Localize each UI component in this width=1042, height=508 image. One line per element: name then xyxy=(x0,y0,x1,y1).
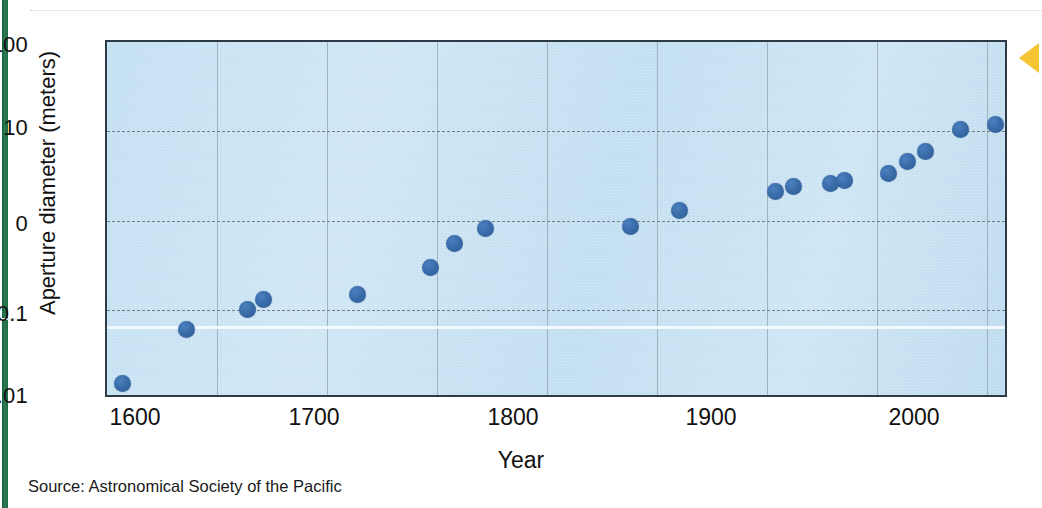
data-point xyxy=(178,321,195,338)
data-point xyxy=(622,218,639,235)
figure-page: 100 10 0 0.1 0.01 1600 1700 1800 1900 20… xyxy=(0,0,1042,508)
data-point xyxy=(477,220,494,237)
gridline-x-1650 xyxy=(217,42,218,395)
data-point xyxy=(767,183,784,200)
plot-area xyxy=(105,40,1007,397)
data-point xyxy=(255,291,272,308)
x-tick-label-2000: 2000 xyxy=(888,404,939,431)
y-tick-label-0.1: 0.1 xyxy=(0,301,28,327)
gridline-x-2000 xyxy=(987,42,988,395)
x-tick-label-1800: 1800 xyxy=(487,404,538,431)
gridline-x-1950 xyxy=(877,42,878,395)
page-edge-bar xyxy=(2,0,8,508)
gridline-y-0 xyxy=(107,221,1005,222)
gridline-x-1900 xyxy=(767,42,768,395)
y-tick-label-100: 100 xyxy=(0,32,28,58)
y-tick-label-0.01: 0.01 xyxy=(0,383,28,409)
gridline-x-1800 xyxy=(547,42,548,395)
data-point xyxy=(836,172,853,189)
source-note: Source: Astronomical Society of the Paci… xyxy=(28,477,342,496)
data-point xyxy=(987,116,1004,133)
data-point xyxy=(446,235,463,252)
scan-band-artifact xyxy=(107,326,1005,329)
data-point xyxy=(785,178,802,195)
top-divider-rule xyxy=(30,10,1042,12)
gridline-y-10 xyxy=(107,131,1005,132)
gridline-x-1850 xyxy=(657,42,658,395)
data-point xyxy=(114,375,131,392)
data-point xyxy=(422,259,439,276)
data-point xyxy=(671,202,688,219)
data-point xyxy=(952,121,969,138)
x-axis-title: Year xyxy=(0,447,1042,474)
data-point xyxy=(880,165,897,182)
gridline-x-1750 xyxy=(437,42,438,395)
plot-paper-texture xyxy=(107,42,1005,395)
y-axis-title: Aperture diameter (meters) xyxy=(35,3,61,363)
x-tick-label-1900: 1900 xyxy=(685,404,736,431)
gridline-x-1700 xyxy=(327,42,328,395)
data-point xyxy=(349,286,366,303)
data-point xyxy=(239,301,256,318)
data-point xyxy=(899,153,916,170)
data-point xyxy=(917,143,934,160)
left-arrow-icon xyxy=(1019,43,1039,73)
x-tick-label-1600: 1600 xyxy=(109,404,160,431)
y-tick-label-10: 10 xyxy=(0,115,28,141)
y-tick-label-1: 0 xyxy=(0,211,28,237)
x-tick-label-1700: 1700 xyxy=(288,404,339,431)
